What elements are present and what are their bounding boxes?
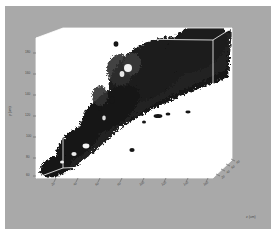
y-tick-label: 80 bbox=[26, 156, 30, 159]
y-tick-label: 120 bbox=[25, 114, 30, 117]
y-tick-label: 60 bbox=[26, 174, 30, 177]
axis-labels-layer: 180 160 140 120 100 80 60 20 40 60 80 10… bbox=[0, 0, 276, 235]
y-tick-label: 180 bbox=[25, 51, 30, 54]
x-tick-label: 40 bbox=[73, 182, 78, 187]
z-tick-label: 60 bbox=[231, 165, 236, 170]
y-axis-label: y (um) bbox=[9, 106, 13, 116]
z-tick-label: 80 bbox=[236, 160, 241, 165]
x-tick-label: 20 bbox=[51, 182, 56, 187]
x-tick-label: 140 bbox=[183, 181, 189, 187]
x-tick-label: 80 bbox=[117, 182, 122, 187]
y-tick-label: 160 bbox=[25, 72, 30, 75]
figure-window: 180 160 140 120 100 80 60 20 40 60 80 10… bbox=[0, 0, 276, 235]
x-tick-label: 160 bbox=[203, 181, 209, 187]
x-tick-label: 100 bbox=[139, 181, 145, 187]
z-tick-label: 40 bbox=[226, 170, 231, 175]
x-tick-label: 120 bbox=[161, 181, 167, 187]
y-tick-label: 140 bbox=[25, 93, 30, 96]
y-tick-label: 100 bbox=[26, 135, 31, 138]
z-tick-label: 20 bbox=[221, 175, 226, 180]
z-axis-label: z (um) bbox=[246, 216, 256, 220]
x-tick-label: 60 bbox=[95, 182, 100, 187]
